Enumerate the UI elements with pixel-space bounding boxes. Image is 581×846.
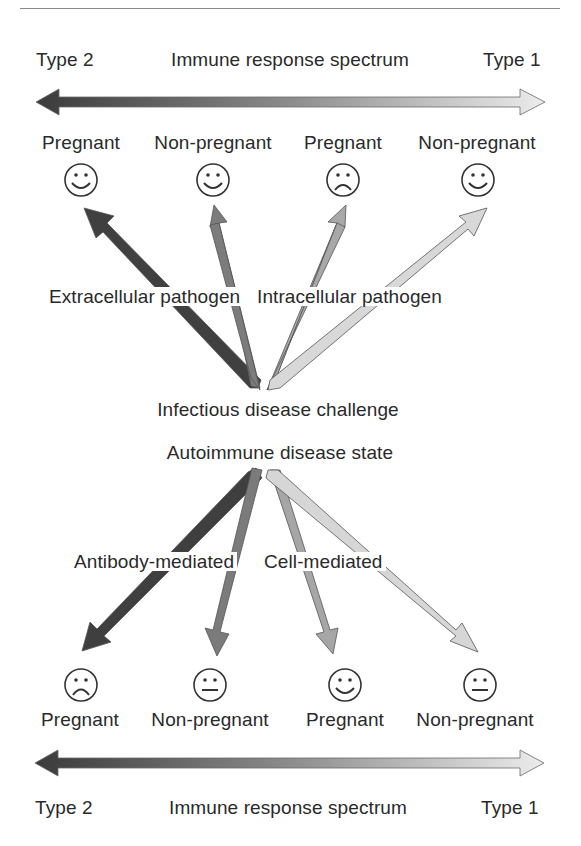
- bottom-spectrum-arrow: [35, 750, 544, 776]
- top-face-2-happy-icon: [197, 164, 229, 196]
- top-face-3-sad-icon: [327, 164, 359, 196]
- bottom-type1-label: Type 1: [481, 798, 539, 817]
- bottom-outcome-2-label: Non-pregnant: [151, 710, 268, 729]
- top-spectrum-title: Immune response spectrum: [171, 50, 409, 69]
- intracellular-pathogen-label: Intracellular pathogen: [254, 287, 445, 306]
- top-type1-label: Type 1: [483, 50, 541, 69]
- bottom-face-4-neutral-icon: [464, 669, 496, 701]
- cell-mediated-label: Cell-mediated: [261, 552, 386, 571]
- infectious-disease-challenge-label: Infectious disease challenge: [157, 400, 399, 419]
- top-outcome-2-label: Non-pregnant: [154, 133, 271, 152]
- top-outcome-4-label: Non-pregnant: [418, 133, 535, 152]
- bottom-spectrum-title: Immune response spectrum: [169, 798, 407, 817]
- bottom-outcome-1-label: Pregnant: [41, 710, 119, 729]
- top-type2-label: Type 2: [36, 50, 94, 69]
- antibody-mediated-label: Antibody-mediated: [71, 552, 237, 571]
- top-outcome-1-label: Pregnant: [42, 133, 120, 152]
- bottom-type2-label: Type 2: [35, 798, 93, 817]
- top-spectrum-arrow: [36, 89, 545, 115]
- top-face-1-happy-icon: [65, 164, 97, 196]
- bottom-outcome-3-label: Pregnant: [306, 710, 384, 729]
- bottom-outcome-4-label: Non-pregnant: [416, 710, 533, 729]
- bottom-face-1-sad-icon: [65, 669, 97, 701]
- extracellular-pathogen-label: Extracellular pathogen: [46, 287, 243, 306]
- top-face-4-happy-icon: [462, 164, 494, 196]
- bottom-face-2-neutral-icon: [194, 669, 226, 701]
- top-outcome-3-label: Pregnant: [304, 133, 382, 152]
- autoimmune-disease-state-label: Autoimmune disease state: [167, 443, 393, 462]
- bottom-face-3-happy-icon: [329, 669, 361, 701]
